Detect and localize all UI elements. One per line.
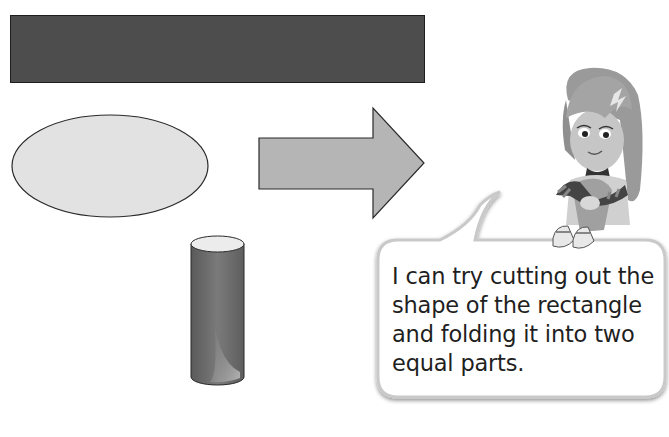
cylinder-shape (191, 236, 244, 385)
ellipse-shape (12, 115, 208, 217)
girl-character (553, 68, 643, 248)
arrow-shape (259, 108, 424, 218)
speech-bubble-text: I can try cutting out the shape of the r… (392, 262, 664, 378)
